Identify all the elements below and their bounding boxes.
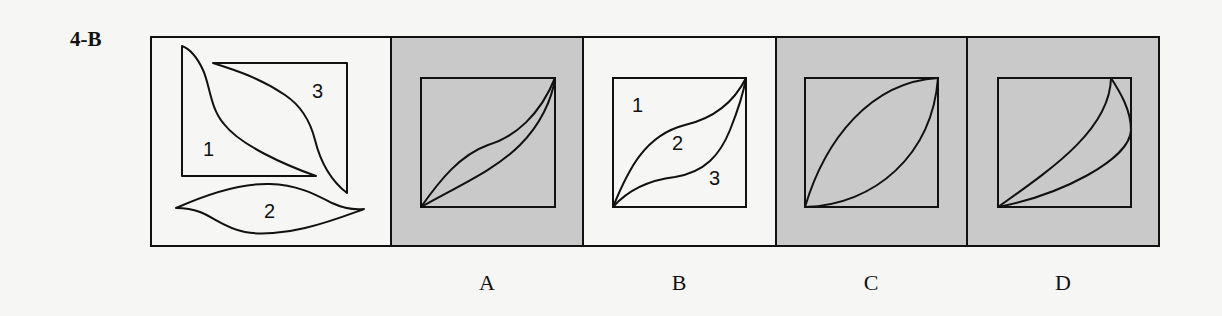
- piece-2-number: 2: [264, 200, 275, 222]
- piece-1-number: 1: [203, 138, 214, 160]
- option-b-number-1: 1: [632, 94, 643, 116]
- option-a-label[interactable]: A: [467, 270, 507, 296]
- puzzle-figure: 4-B 1 2 3: [0, 0, 1222, 316]
- option-b-number-2: 2: [672, 132, 683, 154]
- option-b-number-3: 3: [709, 167, 720, 189]
- piece-3-number: 3: [312, 80, 323, 102]
- option-d-label[interactable]: D: [1043, 270, 1083, 296]
- figure-canvas: 1 2 3 1 2 3: [0, 0, 1222, 316]
- option-c-label[interactable]: C: [851, 270, 891, 296]
- option-b-label[interactable]: B: [659, 270, 699, 296]
